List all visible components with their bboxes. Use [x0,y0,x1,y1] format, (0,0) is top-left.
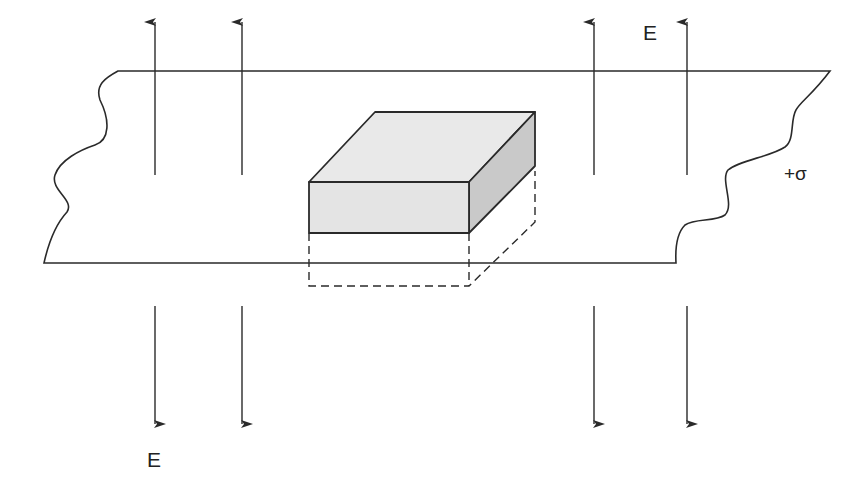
field-label-bottom: E [147,448,161,471]
surface-charge-label: +σ [784,163,807,184]
field-lines-down [155,306,687,424]
gaussian-pillbox [309,112,535,233]
pillbox-front-face [309,182,469,233]
field-label-top: E [643,21,657,44]
pillbox-diagram: E E +σ [0,0,867,485]
diagram-svg: E E +σ [0,0,867,485]
